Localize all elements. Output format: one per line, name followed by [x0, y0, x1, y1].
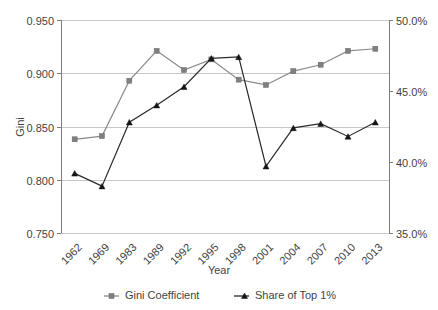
data-point-marker — [318, 62, 323, 67]
y-axis-right-tick-label: 40.0% — [396, 157, 427, 169]
data-point-marker — [182, 68, 187, 73]
data-point-marker — [291, 69, 296, 74]
y-axis-right-tick-label: 45.0% — [396, 86, 427, 98]
y-axis-right-tick-label: 50.0% — [396, 15, 427, 27]
data-point-marker — [346, 48, 351, 53]
legend-label: Gini Coefficient — [125, 289, 199, 301]
y-axis-left-tick-label: 0.900 — [26, 68, 54, 80]
y-axis-title: Gini — [14, 117, 26, 137]
data-point-marker — [127, 78, 132, 83]
line-chart: 0.7500.8000.8500.9000.950 35.0%40.0%45.0… — [0, 0, 438, 310]
data-point-marker — [373, 46, 378, 51]
data-point-marker — [264, 82, 269, 87]
y-axis-left-tick-label: 0.800 — [26, 175, 54, 187]
y-axis-right-tick-label: 35.0% — [396, 228, 427, 240]
chart-container: 0.7500.8000.8500.9000.950 35.0%40.0%45.0… — [0, 0, 438, 310]
legend-label: Share of Top 1% — [255, 289, 336, 301]
y-axis-left-tick-label: 0.950 — [26, 15, 54, 27]
data-point-marker — [72, 137, 77, 142]
x-axis-title: Year — [208, 264, 231, 276]
data-point-marker — [100, 134, 105, 139]
y-axis-left-tick-label: 0.750 — [26, 228, 54, 240]
square-marker-icon — [109, 294, 114, 299]
y-axis-left-tick-label: 0.850 — [26, 122, 54, 134]
data-point-marker — [154, 48, 159, 53]
data-point-marker — [236, 77, 241, 82]
